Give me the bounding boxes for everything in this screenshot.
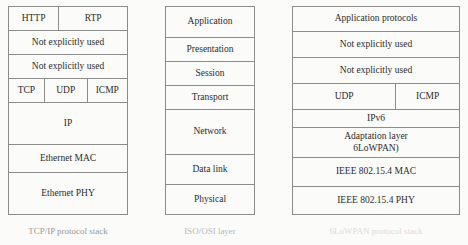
caption-lowpan-protocol-stack: 6LoWPAN protocol stack: [288, 226, 464, 236]
caption-iso-osi-layer: ISO/OSI layer: [155, 226, 265, 236]
stack-layer-cell: ICMP: [396, 84, 459, 109]
stack-layer-row: Network: [165, 109, 255, 154]
stack-layer-row: Transport: [165, 85, 255, 109]
stack-layer-row: Not explicitly used: [8, 30, 128, 54]
stack-layer-cell: HTTP: [9, 7, 59, 30]
stack-layer-row: IP: [8, 102, 128, 144]
stack-layer-row: Application protocols: [292, 6, 460, 31]
lowpan-protocol-stack-table: Application protocolsNot explicitly used…: [292, 6, 460, 215]
stack-layer-cell: RTP: [59, 7, 127, 30]
iso-osi-layer-table: ApplicationPresentationSessionTransportN…: [165, 6, 255, 215]
stack-layer-cell: UDP: [45, 79, 88, 102]
stack-layer-label: Adaptation layer: [344, 131, 408, 143]
stack-layer-row: IEEE 802.15.4 MAC: [292, 157, 460, 186]
stack-layer-row: Data link: [165, 154, 255, 184]
stack-layer-row: Physical: [165, 184, 255, 215]
stack-layer-row: Session: [165, 61, 255, 85]
stack-layer-label-secondary: 6LoWPAN): [344, 143, 408, 155]
stack-layer-row: TCPUDPICMP: [8, 78, 128, 102]
stack-layer-row: Ethernet PHY: [8, 172, 128, 215]
stack-layer-cell: TCP: [9, 79, 45, 102]
stack-layer-row: HTTPRTP: [8, 6, 128, 30]
stack-layer-cell: UDP: [293, 84, 396, 109]
stack-layer-row: Not explicitly used: [8, 54, 128, 78]
stack-layer-row: Application: [165, 6, 255, 37]
stack-layer-row: Not explicitly used: [292, 31, 460, 57]
stack-layer-cell: ICMP: [88, 79, 127, 102]
stack-layer-row: Presentation: [165, 37, 255, 61]
stack-layer-row: IEEE 802.15.4 PHY: [292, 186, 460, 215]
stack-layer-row: Adaptation layer6LoWPAN): [292, 127, 460, 157]
protocol-stack-comparison-figure: HTTPRTPNot explicitly usedNot explicitly…: [0, 0, 468, 245]
tcpip-protocol-stack-table: HTTPRTPNot explicitly usedNot explicitly…: [8, 6, 128, 215]
stack-layer-row: Ethernet MAC: [8, 144, 128, 172]
stack-layer-row: Not explicitly used: [292, 57, 460, 83]
stack-layer-row: UDPICMP: [292, 83, 460, 109]
stack-layer-row: IPv6: [292, 109, 460, 127]
stack-layer-label-group: Adaptation layer6LoWPAN): [344, 131, 408, 155]
caption-tcpip-protocol-stack: TCP/IP protocol stack: [0, 226, 136, 236]
